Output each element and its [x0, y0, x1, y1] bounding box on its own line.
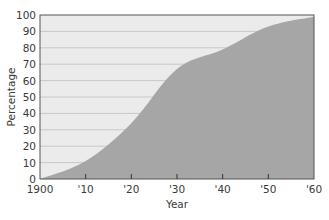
x-tick-label: '20	[123, 183, 139, 195]
y-tick-label: 90	[23, 25, 36, 37]
x-axis-title: Year	[165, 198, 189, 210]
x-tick-label: '30	[169, 183, 185, 195]
x-tick-label: '60	[306, 183, 322, 195]
x-tick-label: '50	[260, 183, 276, 195]
y-axis-title: Percentage	[5, 67, 17, 126]
x-tick-label: 1900	[27, 183, 54, 195]
y-axis-tick-labels: 0102030405060708090100	[16, 9, 36, 185]
y-tick-label: 80	[23, 42, 36, 54]
y-tick-label: 40	[23, 107, 36, 119]
y-tick-label: 30	[23, 124, 36, 136]
y-tick-label: 10	[23, 157, 36, 169]
y-tick-label: 70	[23, 58, 36, 70]
y-tick-label: 60	[23, 75, 36, 87]
x-axis-tick-labels: 1900'10'20'30'40'50'60	[27, 183, 322, 195]
x-tick-label: '10	[78, 183, 94, 195]
y-tick-label: 50	[23, 91, 36, 103]
x-tick-label: '40	[215, 183, 231, 195]
y-tick-label: 20	[23, 140, 36, 152]
y-tick-label: 100	[16, 9, 36, 21]
area-chart: 0102030405060708090100 1900'10'20'30'40'…	[0, 0, 329, 220]
